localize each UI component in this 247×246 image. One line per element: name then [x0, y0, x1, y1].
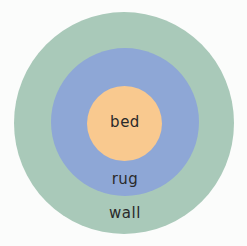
concentric-diagram: bed rug wall: [0, 0, 247, 246]
wall-label: wall: [0, 205, 247, 221]
bed-label: bed: [0, 114, 247, 130]
rug-label: rug: [0, 171, 247, 187]
